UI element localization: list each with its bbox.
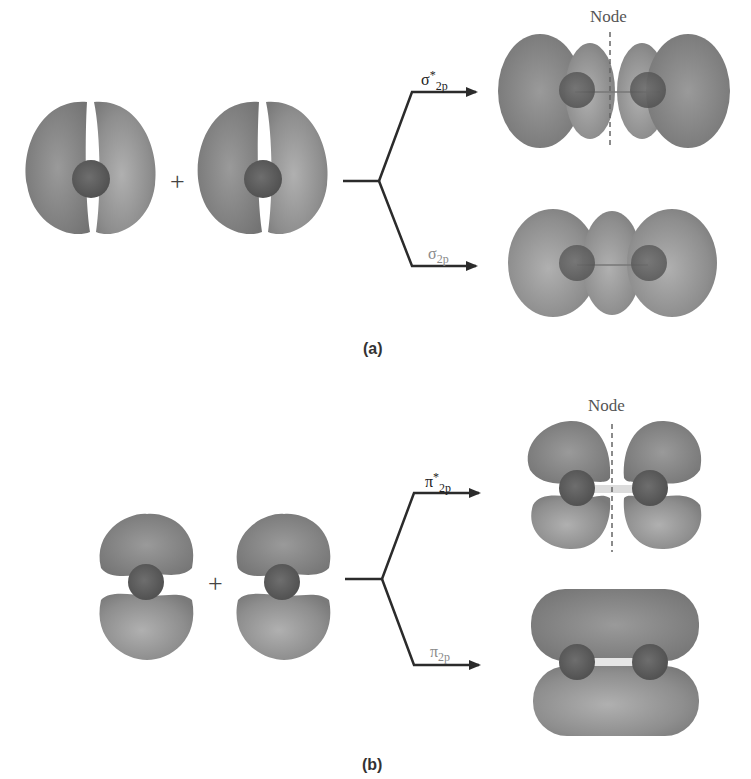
diagram-canvas: + (0, 0, 751, 779)
nucleus-icon (264, 564, 300, 600)
mo-subscript: 2p (437, 252, 449, 266)
plus-sign-b: + (208, 569, 223, 598)
mo-diagram: + (0, 0, 751, 779)
panel-label-b: (b) (362, 756, 382, 774)
sigma-star-2p-orbital (498, 32, 730, 148)
mo-label-pi-star: π*2p (425, 470, 451, 496)
panel-label-a: (a) (363, 340, 383, 358)
nucleus-icon (244, 160, 282, 198)
mo-label-sigma-star: σ*2p (421, 68, 448, 94)
mo-label-sigma: σ2p (428, 245, 449, 267)
nucleus-icon (128, 564, 164, 600)
mo-symbol: π (425, 473, 433, 490)
branch-arrows-b (345, 493, 479, 665)
node-label-b: Node (588, 396, 625, 416)
plus-sign-a: + (170, 167, 185, 196)
panel-b: + (99, 421, 701, 736)
panel-a: + (26, 32, 730, 317)
mo-symbol: σ (421, 71, 430, 88)
sigma-2p-orbital (508, 209, 717, 317)
pi-2p-orbital (529, 584, 699, 736)
node-label-a: Node (590, 7, 627, 27)
mo-symbol: σ (428, 245, 437, 262)
pi-star-2p-orbital (528, 421, 702, 552)
branch-arrows-a (343, 92, 476, 266)
p-orbital-b1 (99, 514, 193, 660)
mo-subscript: 2p (439, 481, 451, 495)
mo-label-pi: π2p (430, 643, 450, 665)
p-orbital-b2 (236, 514, 330, 660)
mo-subscript: 2p (438, 650, 450, 664)
p-orbital-a1 (26, 102, 156, 234)
p-orbital-a2 (198, 102, 328, 234)
mo-subscript: 2p (436, 79, 448, 93)
mo-symbol: π (430, 643, 438, 660)
nucleus-icon (72, 160, 110, 198)
